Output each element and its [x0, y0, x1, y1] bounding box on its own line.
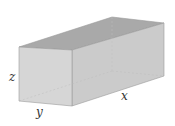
label-x: x — [121, 89, 128, 103]
front-face-yz — [19, 47, 72, 106]
box-diagram: z y x — [0, 0, 175, 126]
label-y: y — [35, 105, 43, 119]
label-z: z — [8, 70, 16, 84]
